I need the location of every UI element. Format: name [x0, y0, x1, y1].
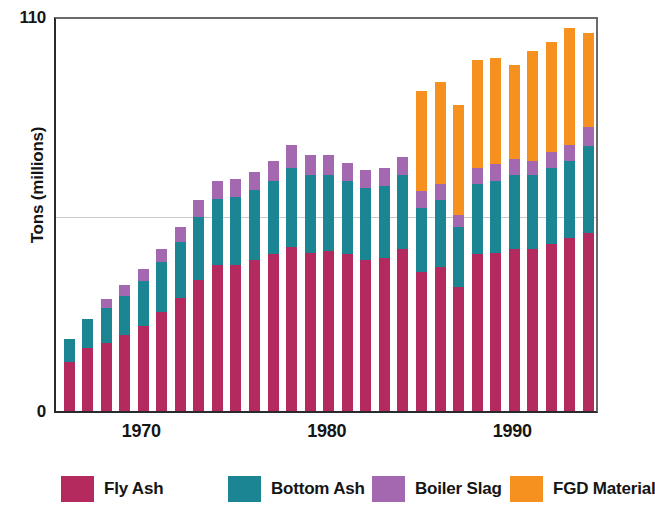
- bar-1992: [546, 42, 557, 411]
- bar-segment-bottom-ash: [546, 168, 557, 244]
- bar-1969: [119, 285, 130, 411]
- bar-segment-fgd-material: [546, 42, 557, 152]
- bar-segment-fly-ash: [509, 249, 520, 411]
- bar-segment-fgd-material: [472, 60, 483, 168]
- bar-1966: [64, 339, 75, 411]
- bar-segment-bottom-ash: [230, 197, 241, 265]
- bar-segment-fly-ash: [397, 249, 408, 411]
- bar-segment-bottom-ash: [583, 146, 594, 232]
- bar-segment-fgd-material: [564, 28, 575, 145]
- y-axis-title: Tons (millions): [28, 95, 48, 275]
- bar-segment-bottom-ash: [435, 200, 446, 267]
- bar-1989: [490, 58, 501, 411]
- bar-segment-boiler-slag: [490, 164, 501, 180]
- bar-segment-fly-ash: [64, 362, 75, 411]
- bar-segment-fly-ash: [416, 272, 427, 411]
- bar-1979: [305, 155, 316, 411]
- bar-segment-fly-ash: [249, 260, 260, 411]
- bar-segment-boiler-slag: [101, 299, 112, 308]
- bar-segment-bottom-ash: [64, 339, 75, 362]
- bar-segment-boiler-slag: [416, 191, 427, 207]
- bar-segment-boiler-slag: [453, 215, 464, 228]
- legend-item-bottom-ash[interactable]: Bottom Ash: [228, 474, 365, 504]
- bar-segment-bottom-ash: [212, 199, 223, 266]
- bar-1985: [416, 91, 427, 411]
- bar-segment-boiler-slag: [397, 157, 408, 175]
- bar-segment-boiler-slag: [119, 285, 130, 296]
- bar-1975: [230, 179, 241, 411]
- bar-segment-bottom-ash: [101, 308, 112, 342]
- bar-segment-bottom-ash: [193, 217, 204, 280]
- plot-area: [54, 17, 598, 413]
- bar-segment-fly-ash: [138, 326, 149, 411]
- legend-item-fgd-material[interactable]: FGD Material: [510, 474, 655, 504]
- bar-segment-boiler-slag: [360, 170, 371, 188]
- bar-segment-boiler-slag: [435, 184, 446, 200]
- bar-segment-boiler-slag: [379, 168, 390, 186]
- bar-segment-fly-ash: [230, 265, 241, 411]
- legend-item-boiler-slag[interactable]: Boiler Slag: [372, 474, 502, 504]
- bar-segment-bottom-ash: [175, 242, 186, 298]
- bar-segment-fly-ash: [193, 280, 204, 411]
- bar-segment-fly-ash: [472, 254, 483, 411]
- legend-item-fly-ash[interactable]: Fly Ash: [61, 474, 163, 504]
- bar-segment-fgd-material: [435, 82, 446, 185]
- bar-1968: [101, 299, 112, 411]
- bar-segment-fly-ash: [583, 233, 594, 411]
- bar-segment-boiler-slag: [527, 161, 538, 175]
- legend-label: Boiler Slag: [415, 479, 502, 499]
- bar-1990: [509, 65, 520, 411]
- chart-legend: Fly AshBottom AshBoiler SlagFGD Material: [0, 474, 611, 506]
- bar-segment-boiler-slag: [305, 155, 316, 175]
- bar-segment-fgd-material: [416, 91, 427, 192]
- bar-1983: [379, 168, 390, 411]
- bar-segment-fly-ash: [119, 335, 130, 411]
- bar-1973: [193, 200, 204, 411]
- bar-segment-fly-ash: [342, 254, 353, 411]
- x-axis-tick-1990: 1990: [493, 421, 532, 442]
- bar-segment-fly-ash: [156, 312, 167, 411]
- bar-1976: [249, 172, 260, 411]
- bar-segment-fgd-material: [453, 105, 464, 215]
- bar-segment-fly-ash: [453, 287, 464, 411]
- bar-segment-fly-ash: [490, 253, 501, 411]
- bar-1986: [435, 82, 446, 411]
- legend-swatch-icon: [228, 476, 261, 502]
- bar-segment-bottom-ash: [342, 181, 353, 255]
- bar-segment-bottom-ash: [249, 190, 260, 260]
- bar-1982: [360, 170, 371, 411]
- bar-segment-bottom-ash: [138, 281, 149, 326]
- bar-segment-fly-ash: [323, 251, 334, 411]
- bar-segment-fly-ash: [82, 348, 93, 411]
- legend-label: FGD Material: [553, 479, 655, 499]
- bar-segment-bottom-ash: [305, 175, 316, 252]
- bar-1967: [82, 319, 93, 411]
- bar-1974: [212, 181, 223, 411]
- y-axis-tick-max: 110: [2, 8, 46, 28]
- bar-segment-bottom-ash: [397, 175, 408, 249]
- legend-label: Bottom Ash: [271, 479, 365, 499]
- bar-segment-boiler-slag: [286, 145, 297, 168]
- bar-segment-fly-ash: [564, 238, 575, 411]
- bar-segment-bottom-ash: [527, 175, 538, 249]
- bar-segment-boiler-slag: [193, 200, 204, 216]
- bar-segment-fgd-material: [490, 58, 501, 164]
- bar-segment-fly-ash: [268, 254, 279, 411]
- bar-segment-fgd-material: [527, 51, 538, 161]
- bar-segment-boiler-slag: [268, 161, 279, 181]
- bar-segment-bottom-ash: [379, 186, 390, 258]
- bar-segment-boiler-slag: [230, 179, 241, 197]
- bar-segment-boiler-slag: [212, 181, 223, 199]
- bar-segment-bottom-ash: [156, 262, 167, 312]
- bar-segment-boiler-slag: [546, 152, 557, 168]
- legend-swatch-icon: [372, 476, 405, 502]
- bar-1972: [175, 227, 186, 411]
- x-axis-tick-1980: 1980: [307, 421, 346, 442]
- bar-segment-fly-ash: [360, 260, 371, 411]
- bar-segment-boiler-slag: [342, 163, 353, 181]
- bar-segment-bottom-ash: [286, 168, 297, 247]
- bar-1991: [527, 51, 538, 411]
- bar-segment-fgd-material: [583, 33, 594, 127]
- bar-1993: [564, 28, 575, 411]
